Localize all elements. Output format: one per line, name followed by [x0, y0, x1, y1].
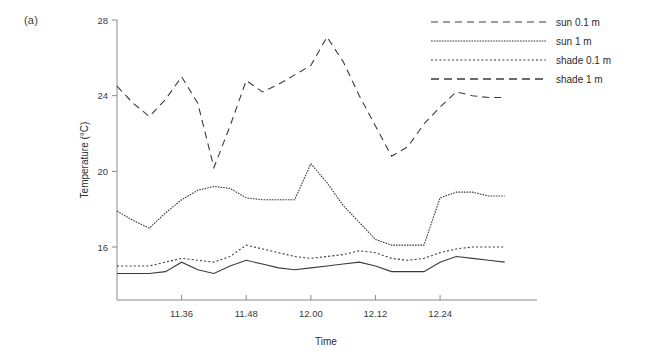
x-axis: 11.3611.4812.0012.1212.24 Time: [117, 295, 537, 347]
series-line-shade-1-m: [117, 256, 505, 273]
y-tick-label: 28: [97, 15, 108, 26]
figure-panel: (a) 16202428 Temperature (°C) 11.3611.48…: [0, 0, 661, 356]
y-axis-title: Temperature (°C): [79, 122, 90, 199]
y-tick-label: 16: [97, 242, 108, 253]
x-tick-group: 11.3611.4812.0012.1212.24: [170, 295, 452, 319]
y-tick-group: 16202428: [97, 15, 117, 253]
series-line-sun-1-m: [117, 164, 505, 245]
legend-label-shade-1-m: shade 1 m: [556, 74, 603, 85]
legend-label-sun-0-1-m: sun 0.1 m: [556, 17, 600, 28]
x-tick-label: 12.00: [299, 308, 323, 319]
legend-label-sun-1-m: sun 1 m: [556, 36, 592, 47]
x-tick-label: 12.12: [364, 308, 388, 319]
y-tick-label: 20: [97, 166, 108, 177]
x-tick-label: 11.48: [235, 308, 258, 319]
x-tick-label: 12.24: [428, 308, 452, 319]
legend-label-shade-0-1-m: shade 0.1 m: [556, 55, 611, 66]
y-axis: 16202428 Temperature (°C): [79, 15, 117, 301]
x-axis-title: Time: [315, 336, 337, 347]
y-tick-label: 24: [97, 90, 108, 101]
temperature-time-line-chart: 16202428 Temperature (°C) 11.3611.4812.0…: [0, 0, 661, 356]
chart-legend: sun 0.1 msun 1 mshade 0.1 mshade 1 m: [431, 17, 611, 85]
series-line-sun-0-1-m: [117, 37, 505, 168]
series-group: [117, 37, 505, 273]
x-tick-label: 11.36: [170, 308, 193, 319]
series-line-shade-0-1-m: [117, 245, 505, 266]
